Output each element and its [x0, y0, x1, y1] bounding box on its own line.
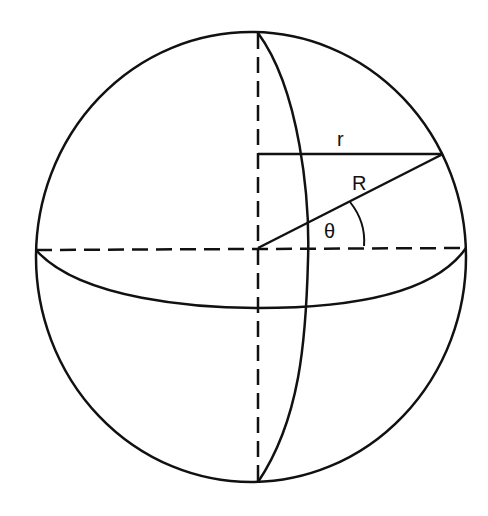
equator-front-curve [36, 248, 466, 308]
sphere-diagram: r R θ [0, 0, 488, 516]
equator-back-dashed [36, 248, 466, 250]
sphere-radius-line [258, 154, 443, 248]
angle-label: θ [324, 220, 335, 242]
small-radius-label: r [337, 128, 344, 150]
angle-arc [350, 202, 364, 246]
sphere-outline [36, 32, 466, 482]
sphere-radius-label: R [352, 172, 366, 194]
meridian-front-curve [258, 33, 308, 482]
